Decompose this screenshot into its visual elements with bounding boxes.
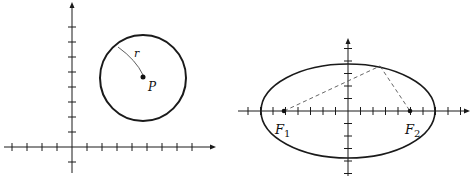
- center-label: P: [147, 80, 157, 94]
- conic-diagrams: r P F1 F2: [0, 0, 475, 179]
- y-axis-arrow: [70, 2, 75, 8]
- circle-figure: r P: [4, 2, 216, 173]
- ellipse-figure: F1 F2: [238, 38, 470, 176]
- focus1-label: F1: [274, 122, 290, 139]
- radius-label: r: [134, 47, 140, 60]
- y-axis-arrow: [346, 38, 351, 44]
- x-axis-arrow: [210, 145, 216, 150]
- dashed-line-f2: [380, 66, 410, 111]
- x-axis-arrow: [464, 109, 470, 114]
- center-point-p: [141, 75, 146, 80]
- focus-point-f2: [408, 109, 413, 114]
- focus2-label: F2: [404, 122, 420, 139]
- focus-point-f1: [282, 109, 287, 114]
